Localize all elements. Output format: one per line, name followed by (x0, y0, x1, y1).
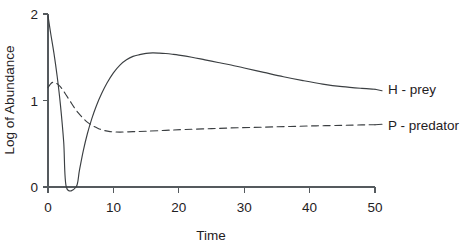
y-axis-title: Log of Abundance (2, 46, 17, 155)
x-tick-label: 30 (237, 200, 252, 215)
series-line-p-predator (48, 82, 375, 132)
legend-swatch-p-predator (375, 124, 382, 125)
y-axis-ticks (43, 14, 48, 187)
x-axis-tick-labels: 01020304050 (44, 200, 382, 215)
y-tick-label: 1 (30, 94, 38, 109)
x-axis-title: Time (196, 228, 226, 243)
x-tick-label: 40 (302, 200, 317, 215)
y-tick-label: 0 (30, 180, 38, 195)
y-tick-label: 2 (30, 7, 38, 22)
y-axis-tick-labels: 012 (30, 7, 38, 195)
legend-label-h-prey: H - prey (388, 82, 436, 97)
predator-prey-line-chart: 012 01020304050 Time Log of Abundance H … (0, 0, 461, 248)
x-tick-label: 50 (367, 200, 382, 215)
x-tick-label: 10 (106, 200, 121, 215)
x-tick-label: 0 (44, 200, 52, 215)
x-tick-label: 20 (171, 200, 186, 215)
chart-container: 012 01020304050 Time Log of Abundance H … (0, 0, 461, 248)
legend-swatch-h-prey (375, 89, 382, 91)
x-axis-ticks (48, 187, 375, 193)
series-line-h-prey (48, 16, 375, 191)
legend-label-p-predator: P - predator (388, 118, 460, 133)
